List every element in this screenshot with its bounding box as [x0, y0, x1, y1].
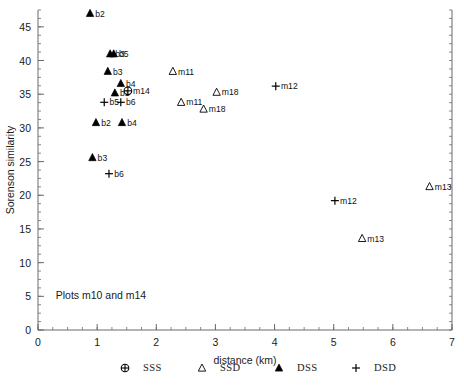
filled-triangle-marker: [118, 119, 125, 126]
data-point-label: b6: [114, 169, 124, 179]
legend-item[interactable]: SSD: [198, 362, 240, 373]
scatter-plot-figure: 01234567051015202530354045Sorenson simil…: [0, 0, 464, 391]
data-point[interactable]: b6: [117, 97, 136, 107]
filled-triangle-marker: [117, 79, 124, 86]
x-tick-label: 5: [331, 336, 337, 348]
y-tick-label: 30: [19, 122, 31, 134]
data-point-label: m14: [133, 86, 150, 96]
legend-label: SSS: [143, 362, 162, 373]
y-tick-label: 35: [19, 88, 31, 100]
data-point-label: m12: [340, 196, 357, 206]
x-tick-label: 2: [153, 336, 159, 348]
data-point[interactable]: b6: [105, 169, 124, 179]
scatter-plot-svg: 01234567051015202530354045Sorenson simil…: [0, 0, 464, 391]
data-point-label: b4: [127, 118, 137, 128]
data-point[interactable]: b3: [89, 153, 108, 163]
data-point-label: b2: [95, 9, 105, 19]
y-tick-label: 40: [19, 55, 31, 67]
data-point[interactable]: m13: [426, 182, 452, 192]
data-point[interactable]: b2: [92, 118, 111, 128]
data-point[interactable]: m13: [358, 234, 384, 244]
y-tick-label: 25: [19, 156, 31, 168]
data-point[interactable]: m11: [169, 67, 194, 77]
plot-annotation: Plots m10 and m14: [56, 289, 147, 301]
plus-marker: [331, 197, 339, 205]
filled-triangle-marker: [92, 119, 99, 126]
plus-marker: [272, 82, 280, 90]
data-point-label: m13: [367, 234, 384, 244]
x-tick-label: 7: [449, 336, 455, 348]
data-point[interactable]: b2: [86, 9, 105, 19]
data-point-label: m12: [281, 81, 298, 91]
data-point[interactable]: m18: [200, 104, 226, 114]
open-triangle-marker: [213, 88, 220, 95]
data-point-label: m11: [178, 67, 194, 77]
y-tick-label: 10: [19, 257, 31, 269]
open-triangle-marker: [426, 183, 433, 190]
x-tick-label: 6: [390, 336, 396, 348]
open-triangle-legend-marker: [198, 364, 205, 371]
open-triangle-marker: [177, 98, 184, 105]
plus-marker: [100, 98, 108, 106]
plus-marker: [105, 170, 113, 178]
y-tick-label: 45: [19, 21, 31, 33]
plus-legend-marker: [352, 364, 360, 372]
data-point[interactable]: b3: [106, 49, 125, 59]
data-point-label: b3: [115, 49, 125, 59]
x-tick-label: 4: [272, 336, 278, 348]
y-tick-label: 15: [19, 223, 31, 235]
y-axis-title: Sorenson similarity: [4, 125, 16, 214]
legend-label: SSD: [220, 362, 240, 373]
data-point-label: m18: [222, 87, 239, 97]
data-point-label: b6: [126, 97, 136, 107]
open-triangle-marker: [358, 234, 365, 241]
data-point-label: m13: [435, 182, 452, 192]
y-tick-label: 5: [25, 290, 31, 302]
data-point-label: b3: [113, 67, 123, 77]
legend-item[interactable]: DSD: [352, 362, 396, 373]
y-tick-label: 20: [19, 189, 31, 201]
x-tick-label: 3: [213, 336, 219, 348]
data-point-label: m11: [186, 97, 202, 107]
data-point[interactable]: b4: [118, 118, 137, 128]
legend-label: DSD: [374, 362, 396, 373]
filled-triangle-marker: [111, 89, 118, 96]
data-point-label: b3: [98, 153, 108, 163]
data-point[interactable]: m11: [177, 97, 202, 107]
data-point-label: m18: [209, 104, 226, 114]
filled-triangle-marker: [104, 67, 111, 74]
data-point[interactable]: b3: [104, 67, 123, 77]
filled-triangle-marker: [86, 9, 93, 16]
filled-triangle-marker: [89, 154, 96, 161]
legend-item[interactable]: DSS: [275, 362, 317, 373]
x-tick-label: 0: [35, 336, 41, 348]
data-point[interactable]: b5: [100, 97, 119, 107]
data-point[interactable]: m18: [213, 87, 239, 97]
y-tick-label: 0: [25, 324, 31, 336]
open-triangle-marker: [169, 67, 176, 74]
data-point[interactable]: m12: [272, 81, 298, 91]
data-point-label: b2: [101, 118, 111, 128]
x-tick-label: 1: [94, 336, 100, 348]
circle-plus-legend-marker: [121, 364, 129, 372]
legend-item[interactable]: SSS: [121, 362, 162, 373]
legend-label: DSS: [297, 362, 317, 373]
data-point[interactable]: m12: [331, 196, 357, 206]
